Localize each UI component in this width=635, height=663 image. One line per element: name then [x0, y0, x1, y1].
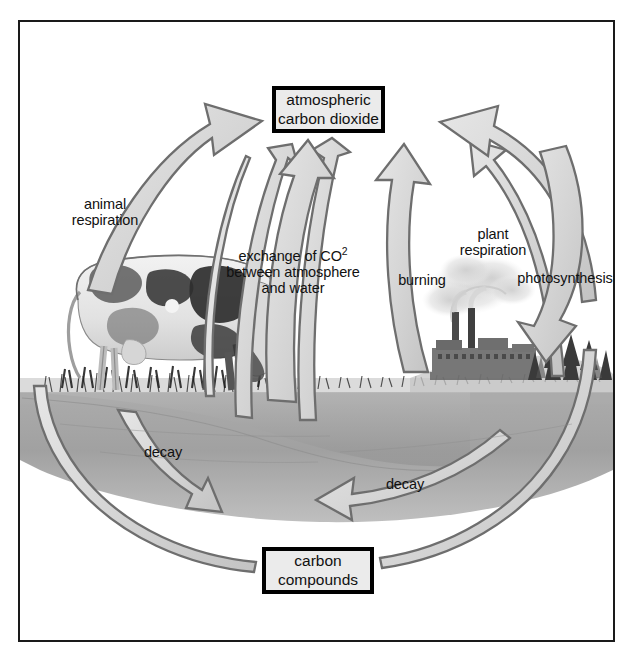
label-exchange-of-co2: exchange of CO2 between atmosphere and w… [218, 246, 368, 297]
label-exchange-line1: exchange of CO2 [238, 248, 347, 264]
label-plant-respiration-line1: plant [478, 226, 509, 242]
label-plant-respiration: plant respiration [452, 226, 534, 258]
label-animal-respiration-line1: animal [84, 196, 126, 212]
label-animal-respiration: animal respiration [50, 196, 160, 228]
node-co2-line2: carbon dioxide [278, 110, 379, 128]
label-plant-respiration-line2: respiration [460, 242, 527, 258]
label-photosynthesis: photosynthesis [512, 270, 618, 286]
label-exchange-line2: between atmosphere [226, 264, 360, 280]
label-decay-left: decay [136, 444, 190, 460]
node-carbon-line1: carbon [278, 552, 358, 570]
label-exchange-line3: and water [262, 280, 325, 296]
carbon-cycle-diagram: atmospheric carbon dioxide carbon compou… [0, 0, 635, 663]
arrow-burning [376, 144, 430, 372]
node-atmospheric-carbon-dioxide[interactable]: atmospheric carbon dioxide [272, 86, 385, 133]
node-co2-line1: atmospheric [278, 91, 379, 109]
label-exchange-superscript: 2 [342, 246, 348, 257]
label-animal-respiration-line2: respiration [72, 212, 139, 228]
node-carbon-compounds[interactable]: carbon compounds [262, 547, 374, 594]
node-carbon-line2: compounds [278, 571, 358, 589]
label-burning: burning [392, 272, 452, 288]
label-decay-right: decay [378, 476, 432, 492]
